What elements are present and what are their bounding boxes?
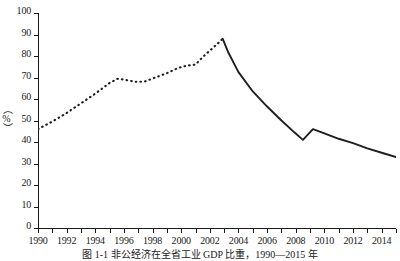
y-axis-tick-label: 10 <box>21 200 31 210</box>
y-axis-tick-label: 20 <box>21 178 31 188</box>
plot-area <box>38 13 396 228</box>
x-axis-tick-mark <box>396 229 397 233</box>
x-axis-tick-label: 2010 <box>315 235 334 246</box>
y-axis-tick-label: 30 <box>21 157 31 167</box>
x-axis-tick-mark <box>196 229 197 233</box>
figure-caption: 图 1-1 非公经济在全省工业 GDP 比重，1990—2015 年 <box>0 249 400 261</box>
x-axis-tick-label: 2006 <box>258 235 277 246</box>
x-axis-tick-label: 2012 <box>343 235 362 246</box>
x-axis-tick-label: 1992 <box>57 235 76 246</box>
series-line-dotted <box>38 39 223 129</box>
x-axis-tick-label: 1994 <box>86 235 105 246</box>
x-axis-tick-label: 1996 <box>114 235 133 246</box>
y-axis-label: （%） <box>1 104 11 132</box>
y-axis-tick-label: 80 <box>21 49 31 59</box>
y-axis-tick-label: 40 <box>21 135 31 145</box>
x-axis-tick-mark <box>310 229 311 233</box>
line-series-svg <box>38 13 396 228</box>
x-axis-tick-mark <box>281 229 282 233</box>
x-axis-tick-mark <box>95 229 96 233</box>
x-axis-tick-mark <box>367 229 368 233</box>
x-axis-tick-mark <box>138 229 139 233</box>
x-axis-tick-mark <box>324 229 325 233</box>
y-axis-tick-label: 100 <box>17 6 31 16</box>
x-axis-tick-mark <box>267 229 268 233</box>
x-axis-tick-mark <box>81 229 82 233</box>
x-axis-tick-mark <box>52 229 53 233</box>
x-axis-tick-mark <box>296 229 297 233</box>
x-axis-tick-mark <box>382 229 383 233</box>
y-axis-tick-label: 50 <box>21 114 31 124</box>
x-axis-tick-label: 2002 <box>200 235 219 246</box>
x-axis-line <box>38 228 396 229</box>
x-axis-tick-label: 2000 <box>172 235 191 246</box>
x-axis-tick-mark <box>224 229 225 233</box>
x-axis-tick-mark <box>181 229 182 233</box>
x-axis-tick-label: 2004 <box>229 235 248 246</box>
x-axis-tick-mark <box>167 229 168 233</box>
x-axis-tick-mark <box>153 229 154 233</box>
x-axis-tick-mark <box>67 229 68 233</box>
x-axis-tick-mark <box>339 229 340 233</box>
x-axis-tick-mark <box>253 229 254 233</box>
y-axis-tick-label: 70 <box>21 71 31 81</box>
x-axis-tick-mark <box>38 229 39 233</box>
x-axis-tick-mark <box>124 229 125 233</box>
x-axis-tick-mark <box>210 229 211 233</box>
x-axis-tick-label: 1998 <box>143 235 162 246</box>
x-axis-tick-label: 2014 <box>372 235 391 246</box>
x-axis-tick-mark <box>110 229 111 233</box>
y-axis-tick-label: 0 <box>26 221 31 231</box>
y-axis-tick-label: 90 <box>21 28 31 38</box>
series-line-solid <box>223 39 396 157</box>
y-axis-tick-label: 60 <box>21 92 31 102</box>
x-axis-tick-label: 2008 <box>286 235 305 246</box>
x-axis-tick-mark <box>238 229 239 233</box>
x-axis-tick-mark <box>353 229 354 233</box>
x-axis-tick-label: 1990 <box>28 235 47 246</box>
